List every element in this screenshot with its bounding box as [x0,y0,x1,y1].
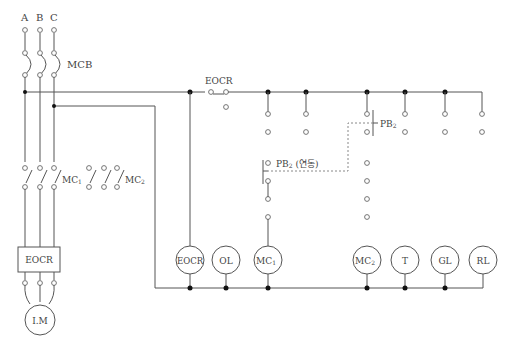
motor-terminals [23,272,57,304]
eocr-contact-label: EOCR [205,76,233,86]
mcb-label: MCB [67,59,92,70]
open-terminals-column [365,161,370,220]
svg-text:T: T [402,256,408,266]
lamp-rl: RL [469,246,497,274]
mc2-main-label: MC2 [125,175,145,185]
phase-label-c: C [50,12,58,23]
pb2-top-button [373,110,378,136]
svg-text:EOCR: EOCR [177,256,204,266]
coil-eocr: EOCR [176,246,204,274]
svg-text:RL: RL [477,256,490,266]
phase-label-a: A [20,12,29,23]
mc2-main-contacts [87,166,124,190]
supply-terminals [23,28,57,50]
pb2-top-label: PB2 [380,119,397,129]
timer-t: T [391,246,419,274]
svg-text:GL: GL [438,256,451,266]
mc1-main-label: MC1 [62,175,82,185]
phase-label-b: B [36,12,43,23]
coil-mc1: MC1 [254,246,282,274]
lamp-gl: GL [431,246,459,274]
coil-ol: OL [212,246,240,274]
mc1-main-contacts [23,166,61,247]
control-bus-top [23,90,205,95]
pb2-linked-button [263,160,270,252]
circuit-diagram: A B C MCB EOCR [0,0,514,350]
svg-text:OL: OL [219,256,232,266]
eocr-contact [209,90,482,110]
bus-junctions [266,90,483,113]
pb2-linked-label: PB2(연동) [276,159,319,169]
control-bus-return [52,104,155,288]
motor-label: I.M [32,316,48,326]
coil-mc2: MC2 [353,246,381,274]
eocr-box-label: EOCR [25,255,53,265]
